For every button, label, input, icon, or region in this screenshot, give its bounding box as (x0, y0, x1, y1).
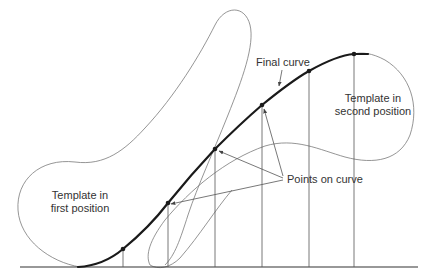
points-leader-arrow-3 (264, 109, 283, 176)
second-position-label-line1: Template in (318, 92, 428, 105)
final-curve (78, 54, 368, 267)
curve-point-6 (352, 52, 357, 57)
final-curve-label: Final curve (256, 56, 310, 69)
curve-point-1 (121, 247, 126, 252)
points-on-curve-label: Points on curve (287, 173, 363, 186)
curve-point-5 (307, 69, 312, 74)
first-position-label-line1: Template in (35, 189, 125, 202)
points-leader-arrow-1 (171, 180, 283, 204)
curve-point-3 (213, 147, 218, 152)
points-leader-arrow-2 (219, 151, 283, 178)
first-position-label-line2: first position (35, 202, 125, 215)
curve-point-4 (260, 103, 265, 108)
second-position-label-line2: second position (318, 105, 428, 118)
template-second-position-inner-edge (150, 190, 232, 268)
template-first-position-outline (18, 10, 251, 267)
diagram-canvas (0, 0, 443, 280)
first-position-label: Template in first position (35, 189, 125, 215)
template-second-position-outline (148, 53, 414, 265)
second-position-label: Template in second position (318, 92, 428, 118)
curve-point-2 (166, 201, 171, 206)
final-curve-leader-arrow (279, 70, 282, 86)
